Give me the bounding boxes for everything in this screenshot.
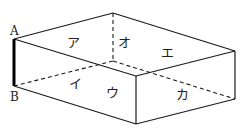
- vertex-label-B: B: [10, 90, 19, 104]
- edge-bottom-front-right: [136, 99, 235, 124]
- vertex-label-A: A: [9, 24, 19, 38]
- face-label-o: オ: [118, 35, 131, 50]
- face-label-ka: カ: [176, 87, 189, 102]
- edge-top-front-right: [136, 51, 235, 76]
- edge-top-back-left: [14, 13, 113, 39]
- face-label-i: イ: [69, 76, 82, 91]
- hidden-edge-left: [14, 61, 113, 86]
- cuboid-diagram: A B ア オ エ イ ウ カ: [0, 0, 243, 133]
- edge-top-back-right: [113, 13, 235, 51]
- face-label-e: エ: [161, 45, 174, 60]
- face-label-u: ウ: [106, 85, 119, 100]
- face-label-a: ア: [67, 35, 80, 50]
